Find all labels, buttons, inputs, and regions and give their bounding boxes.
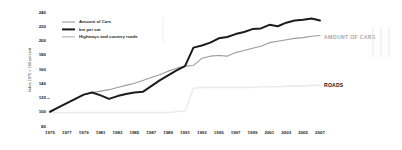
x-tick-label: 1993 — [197, 130, 207, 135]
y-axis-title: Index 1975 = 100 percent — [27, 47, 32, 92]
x-tick-label: 2001 — [264, 130, 274, 135]
x-tick-label: 1983 — [113, 130, 123, 135]
x-tick-label: 2003 — [281, 130, 291, 135]
y-tick-label: 160 — [39, 67, 47, 72]
y-tick-label: 180 — [39, 52, 47, 57]
y-tick-label: 120 — [39, 95, 47, 100]
series-line-amount-of-cars — [50, 36, 320, 112]
y-tick-label: 240 — [39, 10, 47, 15]
x-tick-label: 1979 — [79, 130, 89, 135]
data-series-group — [50, 18, 320, 112]
y-axis-tick-labels: 24022020018016014012010080 — [39, 10, 47, 129]
annotation-amount-of-cars: AMOUNT OF CARS — [324, 34, 376, 40]
x-tick-label: 1989 — [163, 130, 173, 135]
x-tick-label: 1975 — [45, 130, 55, 135]
x-tick-label: 1995 — [214, 130, 224, 135]
x-tick-label: 1999 — [248, 130, 258, 135]
x-tick-label: 1991 — [180, 130, 190, 135]
annotation-roads: ROADS — [324, 82, 344, 88]
x-tick-label: 2007 — [315, 130, 325, 135]
x-tick-label: 1987 — [146, 130, 156, 135]
legend-label: km per car — [79, 27, 101, 32]
y-tick-label: 80 — [41, 124, 46, 129]
edge-marks — [373, 27, 389, 57]
x-tick-label: 2005 — [298, 130, 308, 135]
x-tick-label: 1981 — [96, 130, 106, 135]
x-tick-label: 1977 — [62, 130, 72, 135]
y-tick-label: 140 — [39, 81, 47, 86]
series-line-km-per-car — [50, 18, 320, 111]
y-tick-label: 100 — [39, 109, 47, 114]
x-axis-tick-labels: 1975197719791981198319851987198919911993… — [45, 130, 325, 135]
series-annotations: AMOUNT OF CARSROADS — [324, 34, 376, 88]
chart-legend: Amount of Carskm per carHighways and cou… — [62, 17, 163, 43]
x-tick-label: 1997 — [231, 130, 241, 135]
y-axis-title-group: Index 1975 = 100 percent — [27, 47, 32, 92]
series-line-highways-and-country-roads — [50, 85, 320, 112]
legend-label: Highways and country roads — [79, 34, 138, 39]
x-tick-label: 1985 — [129, 130, 139, 135]
y-tick-label: 200 — [39, 38, 47, 43]
line-chart: Index 1975 = 100 percent 240220200180160… — [0, 0, 402, 150]
legend-label: Amount of Cars — [79, 19, 112, 24]
y-tick-label: 220 — [39, 24, 47, 29]
chart-container: Index 1975 = 100 percent 240220200180160… — [0, 0, 402, 150]
